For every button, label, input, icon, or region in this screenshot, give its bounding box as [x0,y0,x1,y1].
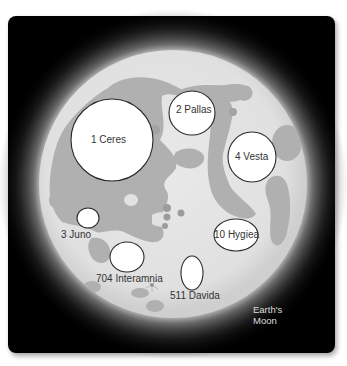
moon-illustration [0,0,347,366]
asteroid-davida [181,256,203,290]
label-davida: 511 Davida [170,291,220,301]
label-pallas: 2 Pallas [176,105,212,115]
label-ceres: 1 Ceres [91,135,126,145]
label-earths-moon: Earth's Moon [253,304,282,326]
label-hygiea: 10 Hygiea [214,230,259,240]
asteroid-juno [77,208,99,228]
label-juno: 3 Juno [61,230,91,240]
asteroid-interamnia [110,242,144,272]
label-earths-moon-line1: Earth's [253,304,282,315]
label-vesta: 4 Vesta [235,152,268,162]
label-interamnia: 704 Interamnia [96,274,163,284]
label-earths-moon-line2: Moon [253,315,282,326]
